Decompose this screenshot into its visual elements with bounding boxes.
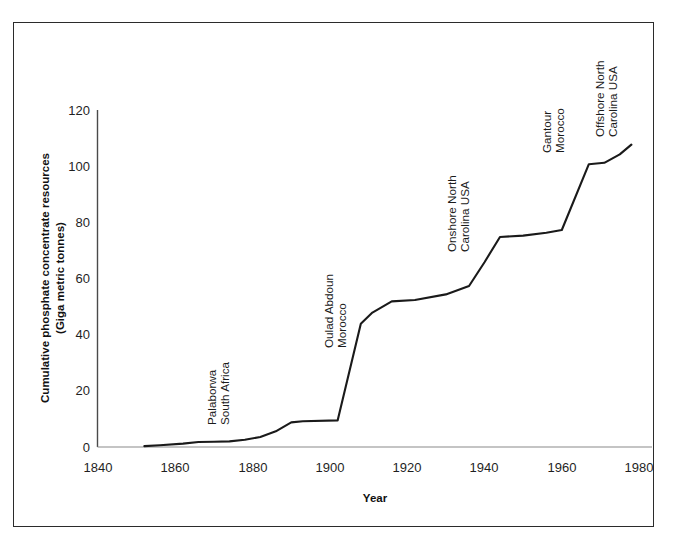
y-tick-label: 60 xyxy=(76,271,90,286)
annotation-line1: Palaborwa xyxy=(205,369,218,425)
annotation-line2: Morocco xyxy=(335,303,348,348)
y-tick-label: 20 xyxy=(76,383,90,398)
annotation-line1: Oulad Abdoun xyxy=(322,274,335,348)
x-tick-label: 1900 xyxy=(316,460,345,475)
y-tick-label: 120 xyxy=(68,103,90,118)
y-axis-title-line1: Cumulative phosphate concentrate resourc… xyxy=(39,153,51,403)
y-tick-label: 80 xyxy=(76,215,90,230)
annotation-line2: Carolina USA xyxy=(606,66,619,137)
x-tick-label: 1980 xyxy=(625,460,654,475)
x-tick-labels: 1840 1860 1880 1900 1920 1940 1960 1980 xyxy=(84,460,654,475)
x-tick-label: 1860 xyxy=(161,460,190,475)
annotation-line1: Gantour xyxy=(540,111,553,153)
figure-container: Cumulative phosphate concentrate resourc… xyxy=(0,0,674,549)
y-tick-label: 40 xyxy=(76,327,90,342)
annotation-line1: Onshore North xyxy=(445,175,458,252)
x-tick-label: 1920 xyxy=(393,460,422,475)
annotation-line2: South Africa xyxy=(218,361,231,425)
annotation-onshore-north-carolina: Onshore North Carolina USA xyxy=(445,175,471,252)
annotation-palaborwa: Palaborwa South Africa xyxy=(205,361,231,425)
line-chart: Cumulative phosphate concentrate resourc… xyxy=(0,0,674,549)
x-tick-label: 1940 xyxy=(470,460,499,475)
annotation-line1: Offshore North xyxy=(593,61,606,137)
y-tick-label: 100 xyxy=(68,159,90,174)
x-tick-label: 1840 xyxy=(84,460,113,475)
annotation-oulad-abdoun: Oulad Abdoun Morocco xyxy=(322,274,348,348)
x-tick-label: 1960 xyxy=(548,460,577,475)
y-axis-title: Cumulative phosphate concentrate resourc… xyxy=(39,153,66,403)
annotation-offshore-north-carolina: Offshore North Carolina USA xyxy=(593,61,619,137)
y-tick-label: 0 xyxy=(83,440,90,455)
y-tick-labels: 120 100 80 60 40 20 0 xyxy=(68,103,90,455)
x-tick-label: 1880 xyxy=(239,460,268,475)
x-axis-title: Year xyxy=(363,492,388,504)
y-axis-title-line2: (Giga metric tonnes) xyxy=(54,222,66,334)
annotation-line2: Carolina USA xyxy=(458,181,471,252)
annotation-line2: Morocco xyxy=(553,108,566,153)
annotation-gantour: Gantour Morocco xyxy=(540,108,566,153)
